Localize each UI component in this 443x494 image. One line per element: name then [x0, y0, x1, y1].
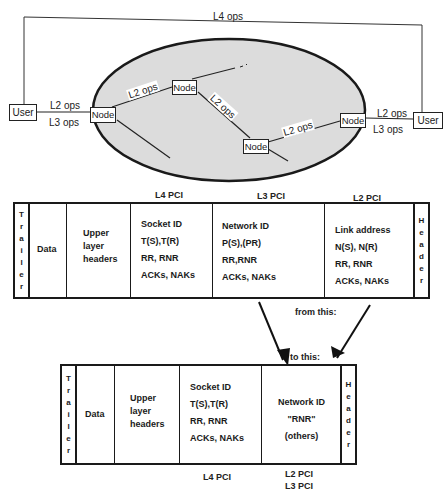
l2-pci-cell: Link addressN(S), N(R)RR, RNRACKs, NAKs: [324, 204, 414, 297]
header-cell: Header: [340, 366, 355, 463]
upper-headers-cell: Upperlayerheaders: [114, 366, 180, 463]
left-l3-ops-label: L3 ops: [49, 117, 79, 128]
l4-pci-cell: Socket IDT(S),T(R)RR, RNRACKs, NAKs: [130, 204, 213, 297]
user-right-box: User: [413, 112, 443, 129]
right-l3-ops-label: L3 ops: [373, 124, 403, 135]
network-id-cell: Network ID"RNR"(others): [261, 366, 341, 463]
user-left-box: User: [9, 104, 37, 121]
footer-l4-pci: L4 PCI: [203, 472, 231, 482]
left-l2-ops-label: L2 ops: [50, 100, 80, 111]
trailer-cell: Trailer: [62, 366, 77, 463]
right-l2-ops-label: L2 ops: [377, 108, 407, 119]
node-box: Node: [243, 139, 269, 154]
l3-pci-heading: L3 PCI: [257, 191, 285, 201]
data-cell: Data: [77, 366, 115, 463]
node-box: Node: [172, 80, 197, 95]
header-cell: Header: [413, 204, 428, 297]
node-box: Node: [340, 113, 366, 128]
l4-pci-cell: Socket IDT(S),T(R)RR, RNRACKs, NAKs: [179, 366, 262, 463]
footer-l3-pci: L3 PCI: [285, 481, 313, 491]
to-this-label: to this:: [290, 352, 320, 362]
footer-l2-pci: L2 PCI: [285, 469, 313, 479]
frame-result: Trailer Data Upperlayerheaders Socket ID…: [60, 364, 357, 465]
upper-headers-cell: Upperlayerheaders: [66, 204, 131, 297]
frame-original: Trailer Data Upperlayerheaders Socket ID…: [13, 202, 430, 299]
l3-pci-cell: Network IDP(S),(PR)RR,RNRACKs, NAKs: [212, 204, 325, 297]
l4-pci-heading: L4 PCI: [155, 190, 183, 200]
data-cell: Data: [30, 204, 67, 297]
node-box: Node: [90, 107, 116, 123]
trailer-cell: Trailer: [15, 204, 30, 297]
from-this-label: from this:: [295, 307, 337, 317]
l4-ops-label: L4 ops: [213, 11, 243, 22]
